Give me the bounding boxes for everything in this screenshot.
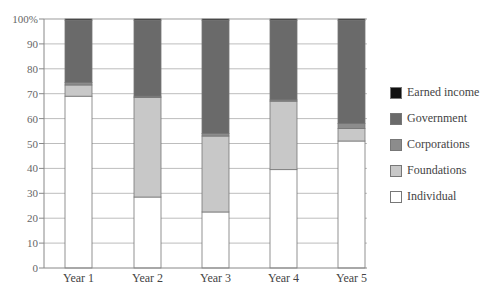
legend-label: Earned income — [407, 85, 479, 100]
bar-segment-foundations — [65, 85, 92, 96]
x-tick-labels: Year 1Year 2Year 3Year 4Year 5 — [63, 271, 367, 285]
y-tick-label: 20 — [27, 212, 39, 224]
bar-segment-foundations — [270, 101, 297, 169]
bar-segment-foundations — [202, 136, 229, 212]
y-tick-label: 60 — [27, 113, 39, 125]
x-tick-label: Year 3 — [200, 271, 231, 285]
legend-label: Foundations — [407, 163, 466, 178]
bar-segment-earned-income — [134, 19, 161, 20]
bar-segment-earned-income — [270, 19, 297, 20]
legend-swatch-individual — [390, 191, 402, 203]
bar-segment-government — [134, 20, 161, 96]
bar-segment-government — [270, 20, 297, 100]
legend-swatch-foundations — [390, 165, 402, 177]
y-tick-label: 0 — [33, 262, 39, 274]
legend-label: Individual — [407, 189, 456, 204]
bar-segment-foundations — [338, 129, 365, 141]
bar-segment-individual — [65, 96, 92, 268]
bar-segment-individual — [270, 170, 297, 268]
legend-label: Government — [407, 111, 467, 126]
bar-segment-individual — [134, 197, 161, 268]
bar-segment-government — [202, 20, 229, 133]
y-tick-label: 50 — [27, 138, 39, 150]
legend-swatch-corporations — [390, 139, 402, 151]
x-tick-label: Year 5 — [336, 271, 367, 285]
x-tick-label: Year 1 — [63, 271, 94, 285]
bar-segment-government — [65, 20, 92, 82]
x-tick-label: Year 4 — [268, 271, 299, 285]
bar-segment-earned-income — [202, 19, 229, 20]
y-tick-label: 100% — [12, 13, 38, 25]
bar-segment-earned-income — [338, 19, 365, 20]
y-tick-label: 30 — [27, 187, 39, 199]
y-tick-label: 80 — [27, 63, 39, 75]
y-tick-label: 40 — [27, 162, 39, 174]
y-tick-label: 10 — [27, 237, 39, 249]
bar-segment-foundations — [134, 97, 161, 197]
bar-segment-government — [338, 20, 365, 123]
bar-segment-individual — [202, 212, 229, 268]
legend-label: Corporations — [407, 137, 470, 152]
y-tick-labels: 0102030405060708090100% — [12, 13, 38, 274]
bar-segment-individual — [338, 141, 365, 268]
y-tick-label: 90 — [27, 38, 39, 50]
y-tick-label: 70 — [27, 88, 39, 100]
legend-swatch-earned-income — [390, 87, 402, 99]
x-tick-label: Year 2 — [132, 271, 163, 285]
bar-segment-earned-income — [65, 19, 92, 20]
legend-swatch-government — [390, 113, 402, 125]
bar-segment-corporations — [338, 124, 365, 129]
